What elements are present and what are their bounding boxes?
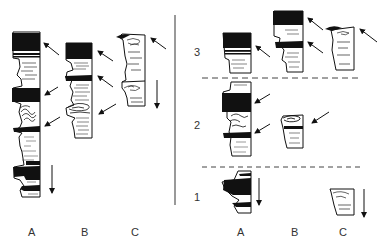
- right-column-label-a: A: [237, 227, 244, 238]
- right-row2-column-a: [222, 82, 251, 156]
- arrow-icon: [360, 29, 377, 42]
- left-column-label-c: C: [131, 227, 139, 238]
- arrow-icon: [98, 76, 113, 87]
- right-row2-column-b: [281, 115, 303, 148]
- left-column-b: [65, 43, 92, 138]
- right-panel-arrows: [255, 18, 377, 217]
- left-column-label-b: B: [81, 227, 88, 238]
- left-column-label-a: A: [28, 227, 35, 238]
- arrow-icon: [312, 112, 329, 123]
- right-row3-column-c: [325, 26, 354, 70]
- right-row1-column-a: [222, 171, 251, 213]
- arrow-icon: [151, 38, 166, 49]
- right-row1-column-c: [330, 189, 354, 215]
- arrow-icon: [308, 42, 323, 53]
- arrow-icon: [255, 124, 270, 133]
- row-label-1: 1: [194, 192, 200, 203]
- left-column-c: [116, 34, 145, 106]
- right-panel: [202, 11, 377, 217]
- arrow-icon: [256, 46, 270, 57]
- right-column-label-c: C: [339, 227, 347, 238]
- left-column-a: [12, 32, 40, 197]
- arrow-icon: [308, 18, 323, 30]
- right-column-label-b: B: [291, 227, 298, 238]
- row-label-2: 2: [194, 120, 200, 131]
- left-panel-arrows: [44, 38, 166, 193]
- arrow-icon: [99, 104, 116, 114]
- row-label-3: 3: [194, 47, 200, 58]
- right-row3-column-a: [223, 33, 251, 73]
- arrow-icon: [255, 94, 270, 103]
- arrow-icon: [45, 87, 58, 95]
- arrow-icon: [45, 117, 60, 126]
- stratigraphic-figure: A B C A B C 3 2 1: [0, 0, 387, 248]
- left-panel: [12, 32, 166, 197]
- arrow-icon: [44, 43, 59, 55]
- arrow-icon: [98, 51, 113, 61]
- right-row3-column-b: [273, 11, 303, 72]
